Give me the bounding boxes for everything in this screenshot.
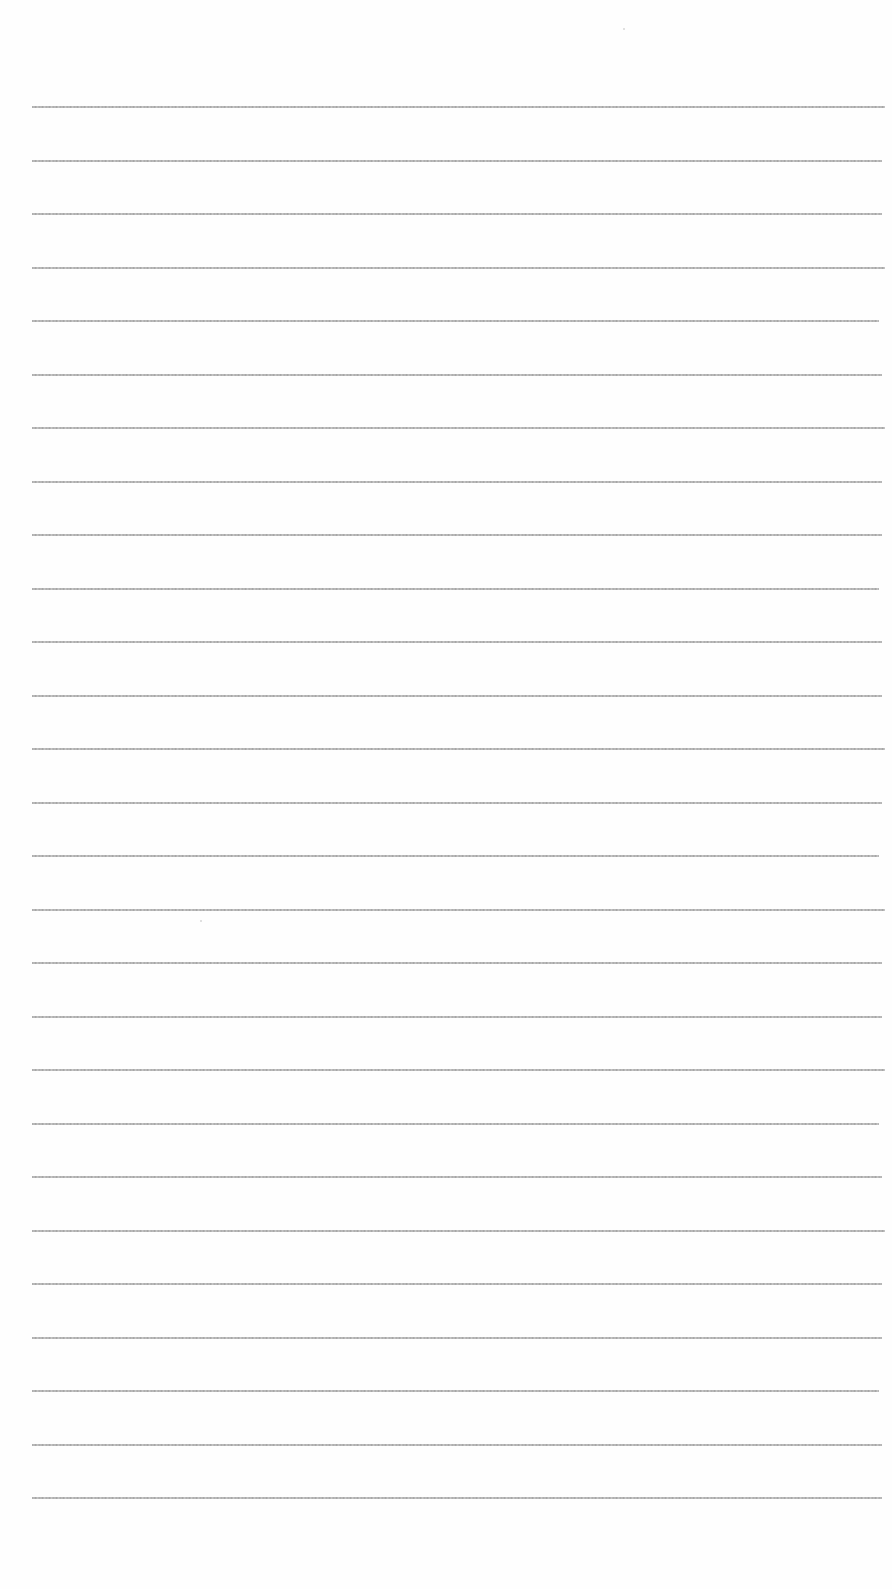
ruled-line [32, 1176, 882, 1178]
ruled-line [32, 802, 882, 804]
lined-paper-page [0, 0, 892, 1589]
ruled-line [32, 160, 882, 162]
paper-speck [623, 28, 625, 30]
ruled-line [32, 748, 885, 750]
ruled-line [32, 695, 882, 697]
ruled-line [32, 267, 885, 269]
ruled-line [32, 1444, 882, 1446]
ruled-line [32, 909, 885, 911]
ruled-line [32, 962, 882, 964]
ruled-line [32, 1230, 885, 1232]
ruled-line [32, 641, 882, 643]
ruled-line [32, 1337, 882, 1339]
ruled-line [32, 213, 882, 215]
ruled-line [32, 1390, 879, 1392]
ruled-line [32, 1283, 882, 1285]
ruled-line [32, 374, 882, 376]
ruled-line [32, 534, 882, 536]
paper-speck [200, 920, 202, 922]
ruled-line [32, 1069, 885, 1071]
ruled-line [32, 106, 885, 108]
ruled-line [32, 320, 879, 322]
ruled-line [32, 481, 882, 483]
ruled-line [32, 1016, 882, 1018]
ruled-line [32, 588, 879, 590]
ruled-line [32, 427, 885, 429]
ruled-line [32, 1497, 882, 1499]
ruled-line [32, 1123, 879, 1125]
ruled-line [32, 855, 879, 857]
